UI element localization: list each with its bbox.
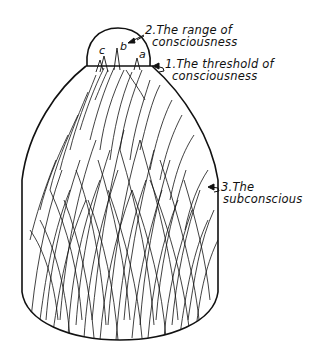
label-range-of-consciousness: 2.The range of consciousness: [145, 24, 237, 48]
label-range-line2: consciousness: [145, 36, 237, 48]
iceberg-shape: [0, 0, 333, 356]
label-subconscious-line2: subconscious: [221, 193, 302, 205]
label-threshold-line2: consciousness: [165, 70, 274, 82]
consciousness-diagram: c b a 2.The range of consciousness 1.The…: [0, 0, 333, 356]
label-subconscious: 3.The subconscious: [221, 181, 302, 205]
peak-label-a: a: [139, 48, 146, 61]
label-threshold-of-consciousness: 1.The threshold of consciousness: [165, 58, 274, 82]
peak-label-b: b: [120, 40, 127, 53]
peak-label-c: c: [99, 44, 105, 57]
